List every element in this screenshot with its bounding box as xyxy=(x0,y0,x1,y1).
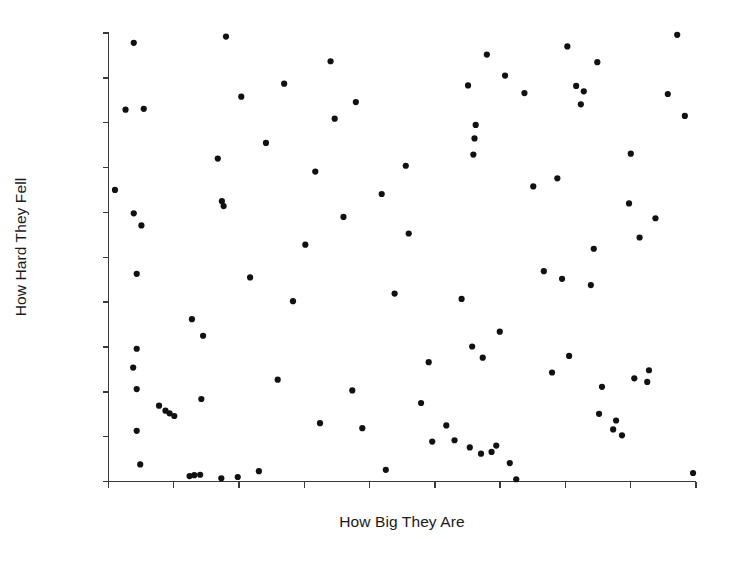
scatter-point xyxy=(628,151,634,157)
scatter-point xyxy=(443,422,449,428)
scatter-point xyxy=(340,214,346,220)
scatter-point xyxy=(359,425,365,431)
scatter-point xyxy=(465,82,471,88)
scatter-point xyxy=(156,403,162,409)
scatter-point xyxy=(392,290,398,296)
scatter-point xyxy=(426,359,432,365)
scatter-point xyxy=(191,472,197,478)
scatter-point xyxy=(581,88,587,94)
scatter-plot-figure: How Big They Are How Hard They Fell xyxy=(0,0,729,567)
scatter-plot-canvas: How Big They Are How Hard They Fell xyxy=(0,0,729,567)
scatter-point xyxy=(215,155,221,161)
scatter-point xyxy=(302,242,308,248)
scatter-point xyxy=(471,135,477,141)
scatter-point xyxy=(473,122,479,128)
scatter-point xyxy=(218,475,224,481)
scatter-point xyxy=(626,200,632,206)
scatter-point xyxy=(138,222,144,228)
scatter-point xyxy=(281,81,287,87)
scatter-point xyxy=(134,428,140,434)
scatter-point xyxy=(327,58,333,64)
scatter-point xyxy=(599,384,605,390)
scatter-point xyxy=(682,113,688,119)
scatter-point xyxy=(507,460,513,466)
scatter-point xyxy=(256,468,262,474)
scatter-point xyxy=(470,151,476,157)
scatter-point xyxy=(137,461,143,467)
scatter-point xyxy=(130,364,136,370)
scatter-point xyxy=(613,417,619,423)
scatter-point xyxy=(418,400,424,406)
scatter-point xyxy=(646,367,652,373)
scatter-point xyxy=(480,355,486,361)
y-axis-label: How Hard They Fell xyxy=(12,178,29,316)
scatter-point xyxy=(493,443,499,449)
scatter-point xyxy=(290,298,296,304)
scatter-point xyxy=(353,99,359,105)
scatter-point xyxy=(275,377,281,383)
scatter-point xyxy=(652,215,658,221)
scatter-point xyxy=(198,396,204,402)
scatter-point xyxy=(578,101,584,107)
scatter-point xyxy=(122,107,128,113)
scatter-point xyxy=(131,210,137,216)
scatter-point xyxy=(502,73,508,79)
scatter-point xyxy=(131,40,137,46)
scatter-point xyxy=(637,234,643,240)
scatter-point xyxy=(112,187,118,193)
scatter-point xyxy=(690,470,696,476)
scatter-point xyxy=(403,163,409,169)
scatter-point xyxy=(665,91,671,97)
scatter-point xyxy=(235,474,241,480)
scatter-point xyxy=(469,343,475,349)
scatter-point xyxy=(631,375,637,381)
scatter-point xyxy=(406,230,412,236)
scatter-point xyxy=(317,420,323,426)
scatter-point xyxy=(588,282,594,288)
scatter-point xyxy=(530,183,536,189)
scatter-point xyxy=(171,413,177,419)
scatter-point xyxy=(488,449,494,455)
scatter-point xyxy=(200,333,206,339)
scatter-point xyxy=(451,437,457,443)
scatter-point xyxy=(521,90,527,96)
scatter-point xyxy=(247,274,253,280)
scatter-point xyxy=(573,83,579,89)
scatter-point xyxy=(312,168,318,174)
scatter-point xyxy=(458,296,464,302)
scatter-point xyxy=(566,353,572,359)
scatter-point xyxy=(383,467,389,473)
scatter-point xyxy=(189,316,195,322)
scatter-point xyxy=(596,411,602,417)
scatter-point xyxy=(221,203,227,209)
scatter-point xyxy=(513,476,519,482)
scatter-point xyxy=(134,271,140,277)
scatter-point xyxy=(644,379,650,385)
scatter-point xyxy=(674,32,680,38)
scatter-point xyxy=(134,386,140,392)
scatter-point xyxy=(349,387,355,393)
scatter-point xyxy=(332,116,338,122)
scatter-point xyxy=(197,472,203,478)
scatter-point xyxy=(134,346,140,352)
scatter-point xyxy=(484,51,490,57)
scatter-point xyxy=(559,276,565,282)
scatter-point xyxy=(549,369,555,375)
scatter-point xyxy=(429,438,435,444)
scatter-point xyxy=(619,432,625,438)
scatter-point xyxy=(554,175,560,181)
scatter-point xyxy=(238,94,244,100)
scatter-point xyxy=(379,191,385,197)
scatter-point xyxy=(497,329,503,335)
scatter-point xyxy=(594,59,600,65)
scatter-point xyxy=(141,106,147,112)
scatter-point xyxy=(564,43,570,49)
scatter-point xyxy=(541,268,547,274)
scatter-point xyxy=(263,140,269,146)
x-axis-label: How Big They Are xyxy=(339,513,464,530)
scatter-point xyxy=(478,451,484,457)
scatter-point xyxy=(591,246,597,252)
scatter-point xyxy=(223,33,229,39)
scatter-point xyxy=(467,444,473,450)
scatter-point xyxy=(610,426,616,432)
